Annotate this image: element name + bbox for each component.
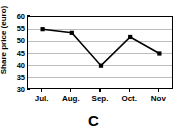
series-markers [41, 27, 162, 68]
data-point-marker [157, 51, 161, 55]
data-point-marker [70, 31, 74, 35]
y-axis-tick-label: 40 [0, 61, 25, 68]
plot-area [27, 16, 173, 89]
data-point-marker [41, 27, 45, 31]
y-axis-tick-label: 45 [0, 49, 25, 56]
data-point-marker [128, 35, 132, 39]
x-axis-tick-mark [70, 89, 71, 92]
y-axis-tick-label: 55 [0, 25, 25, 32]
series-line [43, 29, 160, 66]
line-series-share-price [28, 17, 173, 89]
y-axis-tick-label: 50 [0, 37, 25, 44]
x-axis-tick-mark [158, 89, 159, 92]
y-axis-tick-labels: 30354045505560 [0, 16, 25, 89]
x-axis-tick-mark [99, 89, 100, 92]
x-axis-tick-mark [41, 89, 42, 92]
x-axis-tick-label: Nov [138, 94, 178, 104]
y-axis-tick-label: 60 [0, 13, 25, 20]
y-axis-tick-label: 30 [0, 86, 25, 93]
data-point-marker [99, 64, 103, 68]
figure-caption: C [0, 112, 187, 129]
x-axis-tick-mark [129, 89, 130, 92]
chart-figure: Share price (euro) 30354045505560 Jul.Au… [0, 0, 187, 135]
y-axis-tick-label: 35 [0, 73, 25, 80]
x-axis-tick-labels: Jul.Aug.Sep.Oct.Nov [27, 94, 173, 106]
